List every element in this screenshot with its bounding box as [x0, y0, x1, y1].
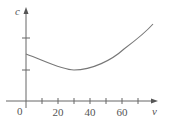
x-tick-label: 60: [117, 106, 129, 118]
x-tick-label: 40: [85, 106, 97, 118]
x-tick-labels: 204060: [53, 106, 129, 118]
curve: [26, 24, 153, 70]
axes: [6, 12, 152, 108]
y-axis-label: c: [15, 5, 20, 17]
origin-label: 0: [17, 105, 23, 117]
x-tick-label: 20: [53, 106, 65, 118]
x-axis-arrow-icon: [151, 99, 158, 104]
y-axis-arrow-icon: [24, 7, 29, 14]
x-axis-label: v: [152, 105, 157, 117]
chart: c v 0 204060: [0, 0, 171, 127]
